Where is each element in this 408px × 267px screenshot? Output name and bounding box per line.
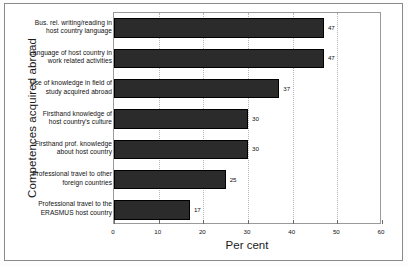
x-axis-tick-label: 20 xyxy=(191,228,213,235)
bar xyxy=(114,18,324,37)
gridline xyxy=(337,13,338,223)
x-axis-tick xyxy=(382,220,383,224)
chart-figure: Competences acquired abroad Bus. rel. wr… xyxy=(0,0,408,267)
category-label-line: Firsthand knowledge of xyxy=(26,110,112,118)
category-label-line: Use of knowledge in field of xyxy=(26,79,112,87)
x-axis-tick xyxy=(114,220,115,224)
bar xyxy=(114,140,248,159)
plot-area: 47473730302517 xyxy=(113,12,381,224)
category-label-line: about host country xyxy=(26,148,112,156)
bar xyxy=(114,109,248,128)
x-axis-tick xyxy=(337,220,338,224)
x-axis-tick-label: 30 xyxy=(236,228,258,235)
category-label: Bus. rel. writing/reading inhost country… xyxy=(26,19,112,36)
category-label-line: Bus. rel. writing/reading in xyxy=(26,19,112,27)
x-axis-tick xyxy=(203,220,204,224)
category-label-line: work related activities xyxy=(26,57,112,65)
bar-value-label: 37 xyxy=(283,85,290,92)
category-label-line: foreign countries xyxy=(26,179,112,187)
category-label: Use of knowledge in field ofstudy acquir… xyxy=(26,79,112,96)
x-axis-tick xyxy=(293,220,294,224)
x-axis-tick xyxy=(248,220,249,224)
bar xyxy=(114,200,190,219)
category-label-line: Professional travel to other xyxy=(26,170,112,178)
category-label-line: ERASMUS host country xyxy=(26,209,112,217)
category-label: Professional travel to otherforeign coun… xyxy=(26,170,112,187)
gridline xyxy=(248,13,249,223)
category-label-line: Firsthand prof. knowledge xyxy=(26,140,112,148)
x-axis-tick-label: 40 xyxy=(281,228,303,235)
category-label-line: Professional travel to the xyxy=(26,200,112,208)
bar-value-label: 30 xyxy=(252,115,259,122)
category-label-line: host country language xyxy=(26,27,112,35)
x-axis-tick xyxy=(159,220,160,224)
x-axis-tick-label: 10 xyxy=(147,228,169,235)
bar-value-label: 47 xyxy=(328,24,335,31)
category-label: Language of host country inwork related … xyxy=(26,49,112,66)
category-label-line: study acquired abroad xyxy=(26,88,112,96)
x-axis-tick-label: 0 xyxy=(102,228,124,235)
x-axis-tick-label: 50 xyxy=(325,228,347,235)
bar xyxy=(114,79,279,98)
gridline xyxy=(293,13,294,223)
category-label-line: host country's culture xyxy=(26,118,112,126)
x-axis-title: Per cent xyxy=(113,239,381,251)
category-label: Firsthand prof. knowledgeabout host coun… xyxy=(26,140,112,157)
bar-value-label: 47 xyxy=(328,54,335,61)
category-axis-labels: Bus. rel. writing/reading inhost country… xyxy=(26,12,112,224)
category-label: Professional travel to theERASMUS host c… xyxy=(26,200,112,217)
x-axis-tick-label: 60 xyxy=(370,228,392,235)
bar xyxy=(114,49,324,68)
bar xyxy=(114,170,226,189)
category-label: Firsthand knowledge ofhost country's cul… xyxy=(26,110,112,127)
bar-value-label: 17 xyxy=(194,206,201,213)
bar-value-label: 25 xyxy=(230,176,237,183)
bar-value-label: 30 xyxy=(252,145,259,152)
category-label-line: Language of host country in xyxy=(26,49,112,57)
